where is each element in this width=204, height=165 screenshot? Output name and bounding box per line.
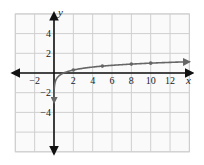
x-axis-label: x	[185, 74, 191, 86]
data-point	[149, 61, 153, 65]
y-tick-label: 4	[46, 28, 51, 39]
y-tick-label: −2	[40, 87, 51, 98]
x-tick-label: 2	[71, 75, 76, 86]
x-tick-label: −2	[29, 75, 40, 86]
data-point	[130, 62, 134, 66]
y-tick-label: −4	[40, 107, 51, 118]
plot-area	[15, 14, 189, 152]
x-tick-label: 12	[165, 75, 175, 86]
chart: −22468101242−2−4xy	[0, 0, 204, 165]
y-tick-label: 2	[46, 48, 51, 59]
x-tick-label: 4	[90, 75, 95, 86]
x-tick-label: 6	[110, 75, 115, 86]
x-tick-label: 8	[129, 75, 134, 86]
x-tick-label: 10	[146, 75, 156, 86]
data-point	[101, 64, 105, 68]
y-axis-label: y	[57, 6, 63, 18]
data-point	[72, 68, 76, 72]
